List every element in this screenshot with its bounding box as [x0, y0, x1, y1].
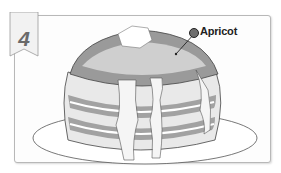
- step-number: 4: [9, 27, 39, 51]
- callout-label: Apricot: [200, 25, 237, 37]
- pancake-illustration: [0, 0, 281, 173]
- callout-marker-icon: [190, 29, 199, 38]
- step-ribbon-number-wrap: 4: [9, 12, 39, 58]
